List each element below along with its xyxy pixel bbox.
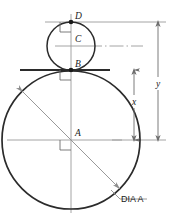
- point-label-D: D: [74, 11, 82, 21]
- center-lines: [7, 14, 122, 213]
- point-label-A: A: [74, 128, 81, 138]
- diameter-leader: DIA A: [23, 92, 148, 205]
- geometry-diagram-canvas: x y DIA A D C B A: [0, 0, 179, 221]
- point-labels: D C B A: [74, 11, 82, 139]
- right-angle-mark-at-A: [60, 140, 71, 150]
- point-label-C: C: [75, 34, 82, 44]
- dimension-x-label: x: [131, 97, 137, 107]
- dimension-x: x: [131, 68, 137, 142]
- diameter-label: DIA A: [121, 194, 144, 204]
- technical-drawing: x y DIA A D C B A: [0, 0, 179, 221]
- point-label-B: B: [75, 59, 81, 69]
- point-dot-B: [69, 68, 74, 73]
- point-dot-D: [69, 20, 74, 25]
- dimension-y: y: [155, 20, 161, 142]
- dimension-y-label: y: [155, 79, 161, 89]
